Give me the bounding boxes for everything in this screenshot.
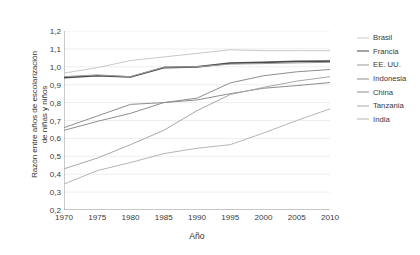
x-axis-tick-label: 1975 [80,213,114,222]
y-axis-title: Razón entre años de escolarización de ni… [0,0,34,220]
legend-item-label: Brasil [373,33,392,42]
chart-figure: Razón entre años de escolarización de ni… [0,0,420,255]
y-axis-tick-label: 0,9 [35,80,61,89]
x-axis-tick-label: 1995 [213,213,247,222]
y-axis-tick-label: 1,1 [35,44,61,53]
legend-item[interactable]: Indonesia [357,72,419,86]
x-axis-tick-label: 1970 [47,213,81,222]
plot-area [64,31,330,210]
legend-item[interactable]: Francia [357,45,419,59]
legend-item[interactable]: India [357,113,419,127]
legend-item-label: India [373,115,390,124]
series-line [64,62,330,76]
series-line [64,69,330,127]
y-axis-tick-label: 0,5 [35,152,61,161]
y-axis-tick-label: 0,3 [35,188,61,197]
legend-item-label: Francia [373,47,399,56]
y-axis-tick-label: 0,8 [35,98,61,107]
x-axis-tick-label: 1980 [114,213,148,222]
series-canvas [64,31,330,210]
chart-legend: BrasilFranciaEE. UU.IndonesiaChinaTanzan… [357,31,419,126]
legend-item-label: EE. UU. [373,60,401,69]
y-axis-tick-label: 1,0 [35,62,61,71]
legend-item-label: Indonesia [373,74,406,83]
legend-item-label: Tanzania [373,101,404,110]
legend-item-label: China [373,88,393,97]
legend-line-swatch [357,116,369,122]
legend-line-swatch [357,89,369,95]
legend-item[interactable]: Tanzania [357,99,419,113]
y-axis-tick-label: 0,4 [35,170,61,179]
legend-item[interactable]: China [357,85,419,99]
y-axis-tick-label: 1,2 [35,27,61,36]
legend-line-swatch [357,35,369,41]
x-axis-tick-label: 1990 [180,213,214,222]
legend-item[interactable]: Brasil [357,31,419,45]
y-axis-tick-labels: 0,20,30,40,50,60,70,80,91,01,11,2 [33,31,61,210]
legend-line-swatch [357,103,369,109]
y-axis-tick-label: 0,6 [35,134,61,143]
x-axis-tick-label: 1985 [147,213,181,222]
x-axis-tick-label: 2010 [313,213,347,222]
legend-line-swatch [357,62,369,68]
x-axis-title: Año [64,231,330,241]
y-axis-tick-label: 0,7 [35,116,61,125]
x-axis-tick-label: 2005 [280,213,314,222]
legend-line-swatch [357,48,369,54]
legend-item[interactable]: EE. UU. [357,58,419,72]
x-axis-tick-labels: 197019751980198519901995200020052010 [64,213,330,227]
legend-line-swatch [357,76,369,82]
x-axis-tick-label: 2000 [247,213,281,222]
